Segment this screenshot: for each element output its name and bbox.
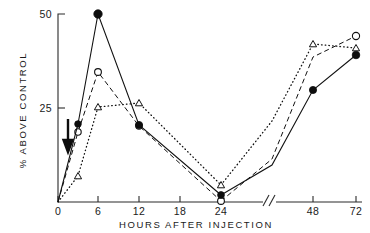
data-point-marker — [94, 10, 102, 18]
data-point-marker — [309, 41, 316, 47]
data-point-marker — [75, 121, 82, 128]
x-tick-72-label: 72 — [350, 205, 362, 217]
series-triangle-line-right — [221, 44, 356, 185]
series-open-circle-line-right — [221, 36, 356, 201]
x-tick-0-label: 0 — [55, 205, 61, 217]
x-tick-24-label: 24 — [215, 205, 227, 217]
y-axis-title: % ABOVE CONTROL — [17, 52, 28, 168]
axis-break-icon — [263, 195, 275, 206]
line-chart: 50 25 % ABOVE CONTROL 0 6 12 18 24 48 72 — [0, 0, 370, 233]
data-point-marker — [352, 32, 359, 39]
y-tick-50-label: 50 — [40, 8, 52, 20]
data-point-marker — [218, 192, 225, 199]
data-point-marker — [352, 51, 360, 59]
figure-container: 50 25 % ABOVE CONTROL 0 6 12 18 24 48 72 — [0, 0, 370, 233]
x-axis-title: HOURS AFTER INJECTION — [119, 219, 273, 230]
data-point-marker — [135, 100, 142, 106]
x-tick-6-label: 6 — [95, 205, 101, 217]
series-open-circle-line-left — [58, 72, 221, 202]
injection-arrow-icon — [64, 119, 73, 152]
x-axis: 0 6 12 18 24 48 72 HOURS AFTER INJECTION — [55, 195, 362, 230]
series-filled-circle-line-left — [58, 14, 221, 202]
y-tick-25-label: 25 — [40, 102, 52, 114]
series-open-triangle-dotted — [58, 41, 360, 203]
series-triangle-line-left — [58, 103, 221, 202]
series-filled-circle-line-right — [221, 55, 356, 195]
y-axis: 50 25 % ABOVE CONTROL — [17, 8, 65, 202]
data-point-marker — [309, 86, 316, 93]
data-point-marker — [135, 121, 142, 128]
series-open-circle-dashed — [58, 32, 360, 204]
data-point-marker — [95, 69, 102, 76]
x-tick-18-label: 18 — [174, 205, 186, 217]
x-tick-12-label: 12 — [133, 205, 145, 217]
data-point-marker — [352, 45, 359, 51]
x-tick-48-label: 48 — [307, 205, 319, 217]
data-point-marker — [74, 173, 81, 179]
